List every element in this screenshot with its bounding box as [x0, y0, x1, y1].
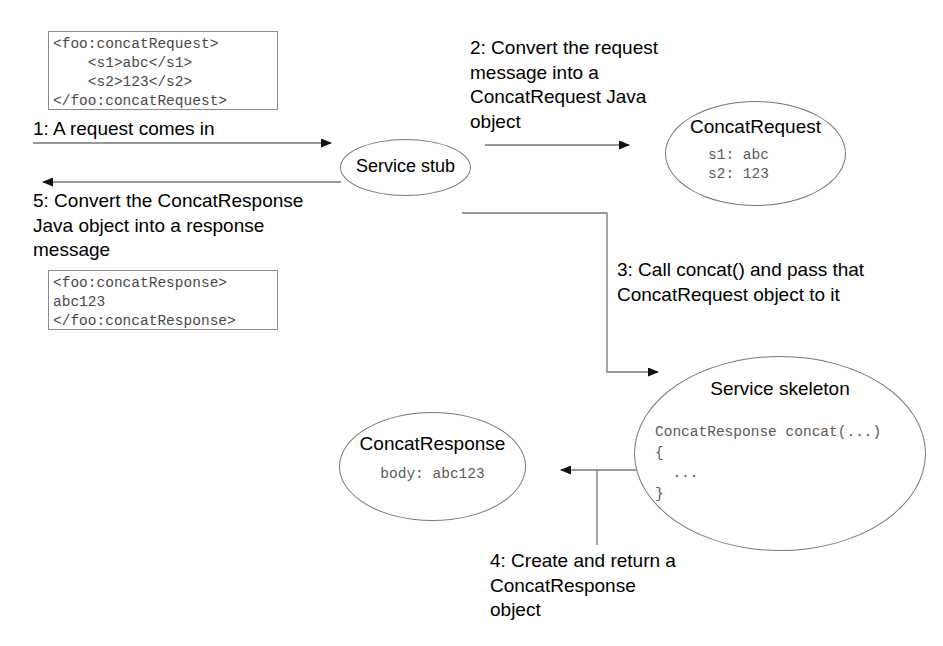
node-service-skeleton-code: ConcatResponse concat(...) { ... } [635, 422, 925, 504]
node-concat-request-title: ConcatRequest [666, 116, 845, 138]
step-5-label: 5: Convert the ConcatResponse Java objec… [33, 189, 303, 263]
node-service-skeleton-title: Service skeleton [635, 378, 925, 400]
step-2-label: 2: Convert the request message into a Co… [470, 36, 658, 135]
step-1-label: 1: A request comes in [33, 117, 215, 142]
arrow-step-4 [561, 470, 637, 545]
diagram-canvas: <foo:concatRequest> <s1>abc</s1> <s2>123… [0, 0, 943, 646]
node-service-stub-title: Service stub [341, 156, 470, 177]
node-concat-response-fields: body: abc123 [340, 466, 525, 482]
node-service-stub: Service stub [340, 139, 471, 196]
node-concat-request-fields: s1: abc s2: 123 [666, 146, 845, 183]
node-concat-response: ConcatResponse body: abc123 [339, 412, 526, 521]
step-3-label: 3: Call concat() and pass that ConcatReq… [617, 258, 864, 307]
node-concat-response-title: ConcatResponse [340, 433, 525, 455]
step-4-label: 4: Create and return a ConcatResponse ob… [490, 549, 676, 623]
node-concat-request: ConcatRequest s1: abc s2: 123 [665, 101, 846, 206]
node-service-skeleton: Service skeleton ConcatResponse concat(.… [634, 356, 926, 551]
xml-request-box: <foo:concatRequest> <s1>abc</s1> <s2>123… [48, 31, 278, 110]
xml-response-box: <foo:concatResponse> abc123 </foo:concat… [48, 270, 278, 330]
